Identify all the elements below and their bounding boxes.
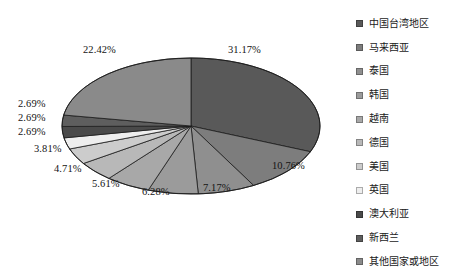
slice-label-4: 5.61% (92, 178, 120, 189)
pie-chart-plot-area: 31.17% 10.76% 7.17% 6.28% 5.61% 4.71% 3.… (0, 0, 340, 280)
pie-chart-svg (0, 0, 340, 280)
legend-item-label: 澳大利亚 (369, 209, 409, 219)
slice-label-2: 7.17% (203, 182, 231, 193)
pie-chart-figure: 31.17% 10.76% 7.17% 6.28% 5.61% 4.71% 3.… (0, 0, 466, 280)
legend-swatch-icon (356, 163, 363, 170)
pie-slice[interactable] (64, 58, 191, 126)
legend-item[interactable]: 德国 (356, 131, 466, 155)
legend-item[interactable]: 其他国家或地区 (356, 250, 466, 274)
legend-item[interactable]: 泰国 (356, 60, 466, 84)
slice-label-7: 2.69% (18, 126, 46, 137)
legend-item[interactable]: 英国 (356, 179, 466, 203)
slice-label-8: 2.69% (18, 112, 46, 123)
slice-label-6: 3.81% (34, 143, 62, 154)
slice-label-5: 4.71% (54, 163, 82, 174)
legend-item-label: 越南 (369, 114, 389, 124)
slice-label-3: 6.28% (142, 186, 170, 197)
legend-item-label: 英国 (369, 185, 389, 195)
legend-swatch-icon (356, 20, 363, 27)
legend-item[interactable]: 美国 (356, 155, 466, 179)
legend-swatch-icon (356, 116, 363, 123)
legend-item-label: 其他国家或地区 (369, 257, 439, 267)
legend-item[interactable]: 马来西亚 (356, 36, 466, 60)
legend-item[interactable]: 越南 (356, 107, 466, 131)
legend-item-label: 泰国 (369, 66, 389, 76)
slice-label-0: 31.17% (228, 44, 261, 55)
legend-swatch-icon (356, 211, 363, 218)
legend-item-label: 马来西亚 (369, 43, 409, 53)
legend-item[interactable]: 中国台湾地区 (356, 12, 466, 36)
legend-item-label: 美国 (369, 162, 389, 172)
legend-swatch-icon (356, 235, 363, 242)
legend-item-label: 中国台湾地区 (369, 19, 429, 29)
legend-item-label: 新西兰 (369, 233, 399, 243)
legend-item-label: 韩国 (369, 90, 389, 100)
legend-item[interactable]: 韩国 (356, 83, 466, 107)
legend-item[interactable]: 澳大利亚 (356, 202, 466, 226)
slice-label-10: 22.42% (83, 44, 116, 55)
legend: 中国台湾地区马来西亚泰国韩国越南德国美国英国澳大利亚新西兰其他国家或地区 (356, 12, 466, 274)
legend-swatch-icon (356, 92, 363, 99)
legend-item[interactable]: 新西兰 (356, 226, 466, 250)
legend-item-label: 德国 (369, 138, 389, 148)
legend-swatch-icon (356, 44, 363, 51)
legend-swatch-icon (356, 139, 363, 146)
slice-label-1: 10.76% (272, 160, 305, 171)
slice-label-9: 2.69% (18, 98, 46, 109)
legend-swatch-icon (356, 258, 363, 265)
legend-swatch-icon (356, 68, 363, 75)
legend-swatch-icon (356, 187, 363, 194)
